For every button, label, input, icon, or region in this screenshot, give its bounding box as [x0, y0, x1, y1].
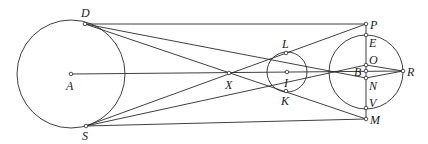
point-m [364, 117, 368, 121]
point-a [69, 72, 73, 76]
point-p [364, 22, 368, 26]
segment-d-n [85, 24, 366, 78]
label-d: D [80, 6, 90, 20]
label-m: M [369, 113, 381, 127]
label-x: X [224, 78, 233, 92]
point-d [83, 22, 87, 26]
label-k: K [280, 94, 290, 108]
point-e [364, 33, 368, 37]
label-r: R [406, 65, 415, 79]
point-r [401, 69, 405, 73]
geometry-diagram: A D S X L I K P E O B N V M R [0, 0, 428, 144]
point-v [364, 106, 368, 110]
label-n: N [368, 79, 378, 93]
point-b [364, 69, 368, 73]
segment-s-o [86, 65, 366, 126]
point-i [285, 70, 289, 74]
label-o: O [369, 53, 378, 67]
point-l [284, 51, 288, 55]
label-e: E [368, 36, 377, 50]
segment-n-r [366, 71, 403, 78]
point-s [84, 124, 88, 128]
label-a: A [65, 79, 74, 93]
label-l: L [281, 37, 289, 51]
point-x [227, 71, 231, 75]
label-b: B [354, 65, 362, 79]
segment-s-x-p [86, 24, 366, 126]
point-n [364, 76, 368, 80]
point-o [364, 63, 368, 67]
label-i: I [283, 76, 289, 90]
segment-s-m [86, 119, 366, 126]
label-s: S [82, 129, 88, 143]
label-p: P [369, 18, 378, 32]
